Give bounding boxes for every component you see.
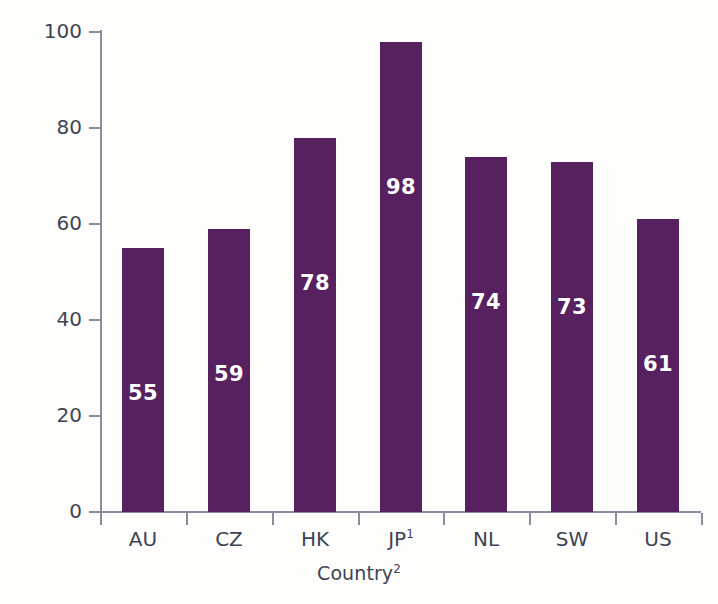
y-axis-tick: [89, 223, 100, 225]
y-axis-top-cap: [100, 30, 102, 32]
bar-nl: 74: [465, 157, 507, 512]
x-axis-label-text: CZ: [215, 527, 243, 551]
y-axis-tick-label-text: 100: [38, 21, 82, 41]
bar-value-label: 61: [637, 354, 679, 375]
x-axis-tick: [186, 513, 188, 525]
x-axis-label-text: AU: [129, 527, 157, 551]
bar-au: 55: [122, 248, 164, 512]
bar-sw: 73: [551, 162, 593, 512]
y-axis-tick: [89, 127, 100, 129]
y-axis-tick-label-text: 60: [38, 213, 82, 233]
x-axis-label-au: AU: [103, 528, 183, 550]
x-axis-label-cz: CZ: [189, 528, 269, 550]
x-axis-label-nl: NL: [446, 528, 526, 550]
bar-value-label: 59: [208, 364, 250, 385]
y-axis-tick-label: 0: [38, 501, 82, 521]
y-axis-tick-label: 80: [38, 117, 82, 137]
y-axis-tick-label: 100: [38, 21, 82, 41]
y-axis-tick: [89, 511, 100, 513]
bar-value-label: 55: [122, 383, 164, 404]
bar-value-label: 74: [465, 292, 507, 313]
bar-hk: 78: [294, 138, 336, 512]
bar-jp: 98: [380, 42, 422, 512]
y-axis-tick: [89, 319, 100, 321]
bar-value-label: 78: [294, 273, 336, 294]
y-axis-tick-label: 60: [38, 213, 82, 233]
x-axis-tick: [100, 513, 102, 525]
y-axis-tick-label: 20: [38, 405, 82, 425]
x-axis-label-sw: SW: [532, 528, 612, 550]
x-axis-tick: [358, 513, 360, 525]
bar-cz: 59: [208, 229, 250, 512]
y-axis-line: [100, 30, 102, 514]
x-axis-tick: [701, 513, 703, 525]
x-axis-label-superscript: 1: [406, 527, 414, 541]
x-axis-label-text: HK: [301, 527, 329, 551]
y-axis-tick-label-text: 0: [38, 501, 82, 521]
y-axis-tick: [89, 415, 100, 417]
x-axis-title: Country2: [0, 562, 718, 584]
x-axis-label-hk: HK: [275, 528, 355, 550]
x-axis-tick: [529, 513, 531, 525]
x-axis-label-text: SW: [556, 527, 588, 551]
y-axis-tick-label-text: 40: [38, 309, 82, 329]
x-axis-label-us: US: [618, 528, 698, 550]
x-axis-title-text: Country: [317, 562, 393, 584]
bar-chart: Percentage of problems 020406080100 5559…: [0, 0, 718, 604]
bar-value-label: 73: [551, 297, 593, 318]
x-axis-label-text: JP: [388, 527, 406, 551]
x-axis-title-superscript: 2: [393, 562, 401, 576]
y-axis-tick-label: 40: [38, 309, 82, 329]
x-axis-tick: [615, 513, 617, 525]
x-axis-label-jp: JP1: [361, 528, 441, 550]
y-axis-tick: [89, 31, 100, 33]
x-axis-tick: [443, 513, 445, 525]
x-axis-label-text: US: [644, 527, 671, 551]
x-axis-label-text: NL: [473, 527, 499, 551]
x-axis-tick: [272, 513, 274, 525]
bar-us: 61: [637, 219, 679, 512]
y-axis-tick-label-text: 20: [38, 405, 82, 425]
bar-value-label: 98: [380, 177, 422, 198]
y-axis-tick-label-text: 80: [38, 117, 82, 137]
